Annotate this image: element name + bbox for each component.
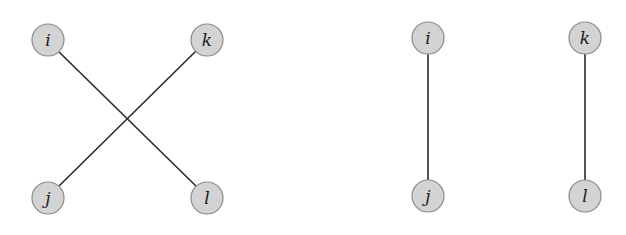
node-i: i	[412, 22, 444, 54]
node-k: k	[569, 22, 601, 54]
node-k: k	[191, 24, 223, 56]
node-i-label: i	[425, 28, 430, 48]
node-l-label: l	[582, 186, 587, 206]
node-l-label: l	[204, 188, 209, 208]
node-k-label: k	[580, 28, 590, 48]
node-j: j	[412, 180, 444, 212]
right-graph: i k j l	[412, 22, 601, 212]
node-l: l	[569, 180, 601, 212]
node-k-label: k	[202, 30, 212, 50]
node-i-label: i	[45, 30, 50, 50]
diagram-canvas: i k j l i k j l	[0, 0, 626, 235]
node-l: l	[191, 182, 223, 214]
left-graph: i k j l	[32, 24, 223, 214]
node-i: i	[32, 24, 64, 56]
node-j: j	[32, 182, 64, 214]
